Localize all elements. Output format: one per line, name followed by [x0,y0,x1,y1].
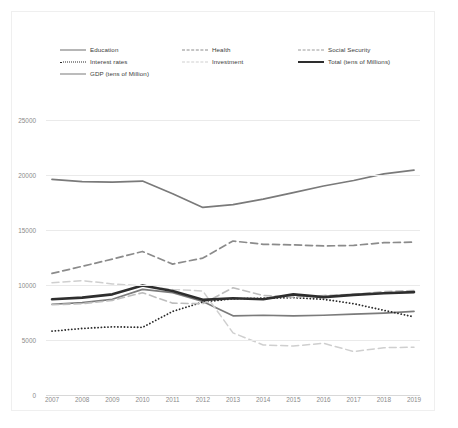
legend-swatch-icon [298,46,324,54]
legend-item-label: Interest rates [90,58,128,66]
x-axis-tick: 2010 [135,396,149,403]
legend-item-label: GDP (tens of Million) [90,70,149,78]
legend-swatch-icon [182,46,208,54]
legend-item[interactable]: Interest rates [60,56,149,67]
legend-item-label: Health [212,46,231,54]
y-axis-tick: 15000 [18,227,36,234]
legend-column-2: HealthInvestment [182,44,243,68]
x-axis-tick: 2007 [45,396,59,403]
x-axis-tick: 2016 [316,396,330,403]
y-axis-tick: 5000 [22,337,36,344]
y-axis-tick-labels: 0500010000150002000025000 [0,120,42,395]
legend-swatch-icon [60,58,86,66]
legend-item-label: Education [90,46,118,54]
x-axis-tick: 2012 [196,396,210,403]
x-axis-tick: 2018 [377,396,391,403]
x-axis-tick: 2009 [105,396,119,403]
legend-item[interactable]: Education [60,44,149,55]
x-axis-tick: 2013 [226,396,240,403]
gridlines [46,120,420,395]
gridline [46,285,420,286]
y-axis-tick: 0 [32,392,36,399]
gridline [46,230,420,231]
x-axis-tick: 2014 [256,396,270,403]
legend-swatch-icon [182,58,208,66]
chart-legend: EducationInterest ratesGDP (tens of Mill… [60,44,420,84]
legend-column-3: Social SecurityTotal (tens of Millions) [298,44,390,68]
legend-swatch-icon [298,58,324,66]
chart-page: EducationInterest ratesGDP (tens of Mill… [0,0,458,428]
y-axis-tick: 10000 [18,282,36,289]
y-axis-tick: 20000 [18,172,36,179]
legend-item[interactable]: Total (tens of Millions) [298,56,390,67]
x-axis-tick: 2017 [347,396,361,403]
legend-swatch-icon [60,70,86,78]
gridline [46,340,420,341]
legend-item[interactable]: Investment [182,56,243,67]
legend-item[interactable]: GDP (tens of Million) [60,68,149,79]
legend-item-label: Total (tens of Millions) [328,58,390,66]
x-axis-tick: 2011 [166,396,180,403]
legend-item[interactable]: Social Security [298,44,390,55]
x-axis-tick: 2015 [286,396,300,403]
legend-column-1: EducationInterest ratesGDP (tens of Mill… [60,44,149,80]
x-axis-tick: 2019 [407,396,421,403]
gridline [46,120,420,121]
legend-item[interactable]: Health [182,44,243,55]
x-axis-tick-labels: 2007200820092010201120122013201420152016… [46,396,420,412]
gridline [46,175,420,176]
y-axis-tick: 25000 [18,117,36,124]
legend-swatch-icon [60,46,86,54]
x-axis-tick: 2008 [75,396,89,403]
plot-area [46,120,420,395]
legend-item-label: Investment [212,58,243,66]
legend-item-label: Social Security [328,46,370,54]
